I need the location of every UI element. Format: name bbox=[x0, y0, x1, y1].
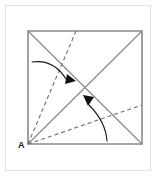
origami-diagram-canvas: A bbox=[0, 0, 161, 182]
origami-fold-figure: A bbox=[0, 0, 161, 182]
corner-label-a: A bbox=[18, 140, 25, 150]
